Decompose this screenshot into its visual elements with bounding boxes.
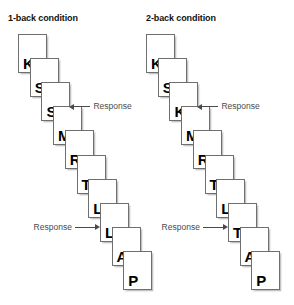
leader-line xyxy=(74,106,90,107)
response-annotation: Response xyxy=(69,101,131,113)
card-letter: P xyxy=(256,273,266,288)
response-label: Response xyxy=(162,223,200,232)
arrow-head-icon xyxy=(95,224,100,230)
card-stack-2-back: KSKMRTLTAPResponseResponse xyxy=(128,0,294,305)
response-annotation: Response xyxy=(166,221,228,233)
response-label: Response xyxy=(93,102,131,111)
response-label: Response xyxy=(34,223,72,232)
arrow-head-icon xyxy=(223,224,228,230)
panel-2-back-condition: 2-back condition KSKMRTLTAPResponseRespo… xyxy=(128,0,294,305)
leader-line xyxy=(203,227,223,228)
letter-card: P xyxy=(123,251,152,290)
figure-canvas: 1-back condition KSSMRTLLAPResponseRespo… xyxy=(0,0,294,305)
response-annotation: Response xyxy=(38,221,100,233)
card-stack-1-back: KSSMRTLLAPResponseResponse xyxy=(0,0,147,305)
response-annotation: Response xyxy=(197,101,259,113)
panel-1-back-condition: 1-back condition KSSMRTLLAPResponseRespo… xyxy=(0,0,147,305)
card-letter: P xyxy=(128,273,138,288)
leader-line xyxy=(75,227,95,228)
letter-card: P xyxy=(251,251,280,290)
response-label: Response xyxy=(221,102,259,111)
leader-line xyxy=(202,106,218,107)
